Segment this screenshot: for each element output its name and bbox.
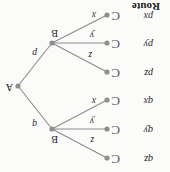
source-bracket-icon-qx: C	[111, 95, 120, 108]
source-bracket-icon-px: C	[111, 10, 120, 23]
source-bracket-icon-qz: C	[111, 153, 120, 166]
edge-label-x-qx: x	[92, 96, 96, 106]
source-label-py: py	[144, 39, 153, 49]
edge-qx-B-upper	[52, 100, 107, 129]
edge-label-z-qz: z	[90, 135, 94, 145]
source-bracket-icon-qy: C	[111, 124, 120, 137]
node-dot-qz[interactable]	[104, 155, 109, 160]
edge-label-q-B-upper: q	[32, 119, 37, 129]
node-dot-B-upper[interactable]	[49, 126, 54, 131]
node-dot-B-lower[interactable]	[49, 40, 54, 45]
node-dot-qy[interactable]	[104, 126, 109, 131]
source-label-qx: qx	[144, 96, 153, 106]
edge-px-B-lower	[52, 15, 107, 43]
edge-qz-B-upper	[52, 129, 107, 158]
edge-label-y-py: y	[90, 30, 94, 40]
source-label-qz: qz	[144, 154, 153, 164]
diagram-edges-layer	[0, 0, 170, 172]
node-dot-qx[interactable]	[104, 97, 109, 102]
edge-label-x-px: x	[92, 10, 96, 20]
edge-pz-B-lower	[52, 43, 107, 72]
node-dot-py[interactable]	[104, 40, 109, 45]
source-bracket-icon-pz: C	[111, 67, 120, 80]
node-dot-px[interactable]	[104, 12, 109, 17]
sink-label-A: A	[6, 82, 13, 92]
source-bracket-icon-py: C	[111, 38, 120, 51]
edge-label-z-pz: z	[88, 50, 92, 60]
edge-label-p-B-lower: p	[32, 48, 37, 58]
source-label-qy: qy	[144, 125, 153, 135]
node-dots	[15, 12, 109, 160]
hub-label-B-lower: B	[51, 28, 58, 38]
edge-label-y-qy: y	[90, 116, 94, 126]
hub-label-B-upper: B	[51, 134, 58, 144]
network-diagram: zyxzyxqpqzCqyCqxCpzCpyCpxCBBA Route	[0, 0, 170, 172]
node-dot-A[interactable]	[15, 83, 20, 88]
source-label-pz: pz	[144, 68, 153, 78]
node-dot-pz[interactable]	[104, 69, 109, 74]
route-axis-label: Route	[132, 1, 160, 12]
